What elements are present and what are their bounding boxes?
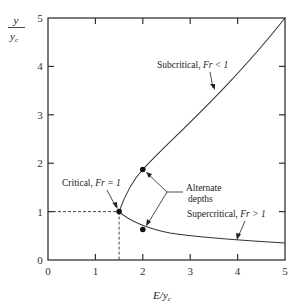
- svg-text:y: y: [13, 14, 19, 26]
- alternate-depths-label-2: depths: [188, 194, 213, 204]
- y-tick-2: 2: [37, 157, 43, 169]
- specific-energy-chart: 0 1 2 3 4 5 0 1 2 3 4 5 y yc E/yc Subcri…: [0, 0, 301, 308]
- alternate-arrows: [147, 173, 183, 225]
- x-tick-3: 3: [187, 265, 193, 277]
- ticks: [48, 18, 285, 260]
- y-tick-0: 0: [37, 254, 43, 266]
- supercritical-label: Supercritical, Fr > 1: [187, 209, 266, 219]
- critical-guides: [48, 212, 119, 260]
- arrow-head-icon: [113, 202, 118, 209]
- x-tick-2: 2: [140, 265, 146, 277]
- critical-point: [116, 209, 122, 215]
- x-tick-5: 5: [282, 265, 288, 277]
- y-tick-5: 5: [37, 12, 43, 24]
- subcritical-label: Subcritical, Fr < 1: [157, 60, 228, 70]
- x-tick-1: 1: [93, 265, 99, 277]
- arrow-head-icon: [210, 84, 215, 90]
- alternate-depths-label-1: Alternate: [186, 183, 221, 193]
- plot-frame: [48, 18, 285, 260]
- x-tick-0: 0: [45, 265, 51, 277]
- svg-text:yc: yc: [9, 30, 19, 44]
- y-tick-3: 3: [37, 109, 43, 121]
- y-tick-4: 4: [37, 60, 43, 72]
- x-tick-4: 4: [235, 265, 241, 277]
- y-axis-title: y yc: [8, 14, 25, 44]
- y-tick-1: 1: [37, 206, 43, 218]
- alternate-depth-upper-point: [140, 167, 146, 173]
- critical-label: Critical, Fr = 1: [62, 178, 121, 188]
- alternate-depth-lower-point: [140, 227, 146, 233]
- arrow-head-icon: [236, 233, 241, 240]
- x-axis-title: E/yc: [152, 289, 172, 303]
